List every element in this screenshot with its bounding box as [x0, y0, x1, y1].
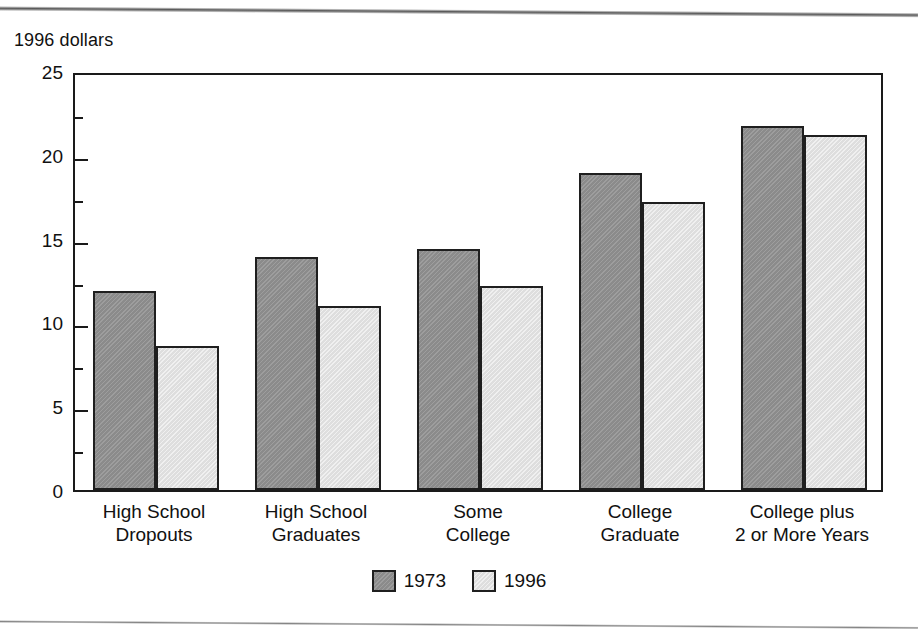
x-axis-category-label: College plus 2 or More Years [721, 500, 883, 546]
bar-1996-group-1 [156, 346, 219, 490]
y-axis-tick-label: 15 [42, 230, 63, 252]
y-axis-tick-label: 20 [42, 146, 63, 168]
y-axis-minor-tick [75, 452, 83, 454]
y-axis-tick-label: 10 [42, 313, 63, 335]
bar-1996-group-5 [804, 135, 867, 490]
y-axis-tick-label: 25 [42, 62, 63, 84]
bar-1996-group-2 [318, 306, 381, 490]
x-axis-category-label: Some College [397, 500, 559, 546]
y-axis-tick-label: 0 [52, 481, 63, 503]
y-axis-tick-label: 5 [52, 397, 63, 419]
bar-1996-group-3 [480, 286, 543, 490]
legend-label: 1973 [404, 570, 446, 592]
chart-legend: 19731996 [0, 570, 918, 592]
bar-1973-group-3 [417, 249, 480, 490]
bar-1973-group-5 [741, 126, 804, 490]
legend-swatch-icon [372, 570, 396, 592]
bar-1973-group-4 [579, 173, 642, 490]
x-axis-category-label: College Graduate [559, 500, 721, 546]
legend-entry-1973: 1973 [372, 570, 446, 592]
y-axis-major-tick [75, 159, 88, 161]
y-axis-minor-tick [75, 285, 83, 287]
legend-label: 1996 [504, 570, 546, 592]
x-axis-category-label: High School Dropouts [73, 500, 235, 546]
bar-1973-group-1 [93, 291, 156, 490]
bar-1973-group-2 [255, 257, 318, 490]
plot-area [73, 73, 883, 492]
y-axis-minor-tick [75, 201, 83, 203]
y-axis-tick-labels: 0510152025 [0, 0, 63, 635]
bar-chart-figure: 1996 dollars 0510152025 High School Drop… [0, 0, 918, 635]
legend-swatch-icon [472, 570, 496, 592]
y-axis-major-tick [75, 243, 88, 245]
y-axis-minor-tick [75, 368, 83, 370]
y-axis-major-tick [75, 410, 88, 412]
legend-entry-1996: 1996 [472, 570, 546, 592]
y-axis-minor-tick [75, 117, 83, 119]
x-axis-category-label: High School Graduates [235, 500, 397, 546]
y-axis-major-tick [75, 326, 88, 328]
bar-1996-group-4 [642, 202, 705, 490]
